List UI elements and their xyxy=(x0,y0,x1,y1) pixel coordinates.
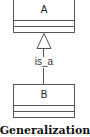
class-box-b: B xyxy=(13,84,75,118)
operations-compartment-b xyxy=(14,112,74,117)
relationship-label: is_a xyxy=(0,57,88,67)
class-name-b: B xyxy=(14,85,74,106)
generalization-arrowhead-icon xyxy=(36,33,52,49)
connector-line-lower xyxy=(43,68,44,84)
class-name-a: A xyxy=(14,0,74,21)
class-box-a: A xyxy=(13,0,75,33)
operations-compartment-a xyxy=(14,27,74,32)
diagram-caption: Generalization xyxy=(0,124,90,137)
